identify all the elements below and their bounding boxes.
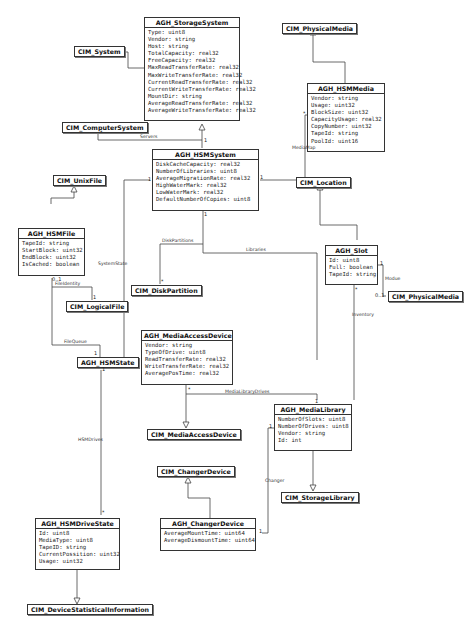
attribute: FreeCapacity: real32 bbox=[148, 57, 236, 64]
cim-changer-device-box: CIM_ChangerDevice bbox=[157, 466, 235, 477]
class-title: AGH_HSMSystem bbox=[153, 150, 258, 160]
attribute: BlockSize: uint32 bbox=[311, 109, 381, 116]
attribute: LowWaterMark: real32 bbox=[156, 189, 255, 196]
cim-unix-file-box: CIM_UnixFile bbox=[53, 175, 106, 186]
agh-changer-device-class: AGH_ChangerDevice AverageMountTime: uint… bbox=[160, 518, 256, 551]
attribute: Type: uint8 bbox=[148, 29, 236, 36]
class-title: AGH_HSMFile bbox=[19, 229, 84, 239]
attribute: Id: uint8 bbox=[39, 530, 116, 537]
attribute: StartBlock: uint32 bbox=[22, 247, 81, 254]
class-title: AGH_StorageSystem bbox=[145, 18, 239, 28]
multiplicity: * bbox=[161, 278, 164, 284]
class-title: AGH_HSMMedia bbox=[308, 84, 384, 94]
attribute: MaxWriteTransferRate: real32 bbox=[148, 72, 236, 79]
attribute: CapacityUsage: real32 bbox=[311, 116, 381, 123]
multiplicity: 1 bbox=[93, 294, 96, 300]
class-attributes: TapeId: string StartBlock: uint32 EndBlo… bbox=[19, 239, 84, 269]
attribute: IsCached: boolean bbox=[22, 261, 81, 268]
attribute: AverageMountTime: uint64 bbox=[164, 530, 252, 537]
agh-storage-system-class: AGH_StorageSystem Type: uint8 Vendor: st… bbox=[144, 17, 240, 121]
attribute: WriteTransferRate: real32 bbox=[145, 363, 229, 370]
attribute: Full: boolean bbox=[329, 264, 374, 271]
association-label-system-state: SystemState bbox=[98, 261, 127, 266]
association-label-file-queue: FileQueue bbox=[64, 339, 87, 344]
attribute: TypeOfDrive: uint8 bbox=[145, 349, 229, 356]
association-label-libraries: Libraries bbox=[246, 247, 266, 252]
class-attributes: Vendor: string TypeOfDrive: uint8 ReadTr… bbox=[142, 341, 232, 378]
agh-hsm-system-class: AGH_HSMSystem DiskCacheCapacity: real32 … bbox=[152, 149, 259, 211]
agh-media-library-class: AGH_MediaLibrary NumberOfSlots: uint8 Nu… bbox=[274, 404, 352, 451]
association-label-inventory: Inventory bbox=[352, 312, 374, 317]
attribute: TapeId: string bbox=[329, 271, 374, 278]
class-attributes: Type: uint8 Vendor: string Host: string … bbox=[145, 28, 239, 115]
multiplicity: * bbox=[102, 509, 105, 515]
multiplicity: 1 bbox=[148, 176, 151, 182]
multiplicity: 1 bbox=[269, 423, 272, 429]
attribute: AverageWriteTransferRate: real32 bbox=[148, 107, 236, 114]
agh-hsm-drive-state-class: AGH_HSMDriveState Id: uint8 MediaType: u… bbox=[35, 518, 120, 570]
attribute: AverageMigrationRate: real32 bbox=[156, 175, 255, 182]
cim-logical-file-box: CIM_LogicalFile bbox=[66, 301, 128, 312]
cim-system-box: CIM_System bbox=[74, 46, 125, 57]
attribute: PoolId: uint16 bbox=[311, 138, 381, 145]
cim-location-box: CIM_Location bbox=[296, 177, 351, 188]
multiplicity: 1 bbox=[260, 174, 263, 180]
cim-computer-system-box: CIM_ComputerSystem bbox=[62, 122, 148, 133]
attribute: MaxReadTransferRate: real32 bbox=[148, 64, 236, 71]
multiplicity: * bbox=[303, 110, 306, 116]
attribute: CopyNumber: uint32 bbox=[311, 123, 381, 130]
attribute: CurrentWriteTransferRate: real32 bbox=[148, 86, 236, 93]
attribute: Vendor: string bbox=[148, 36, 236, 43]
attribute: Usage: uint32 bbox=[39, 558, 116, 565]
attribute: Vendor: string bbox=[278, 430, 348, 437]
multiplicity: 1 bbox=[259, 528, 262, 534]
attribute: MediaType: uint8 bbox=[39, 537, 116, 544]
association-label-disk-partitions: DiskPartitions bbox=[162, 238, 193, 243]
multiplicity: 0..1 bbox=[375, 292, 385, 298]
class-attributes: Vendor: string Usage: uint32 BlockSize: … bbox=[308, 94, 384, 146]
attribute: CurrentPossition: uint32 bbox=[39, 551, 116, 558]
multiplicity: 1 bbox=[204, 211, 207, 217]
agh-hsm-state-box: AGH_HSMState bbox=[77, 357, 139, 368]
association-label-hsm-drives: HSMDrives bbox=[78, 437, 103, 442]
attribute: MountDir: string bbox=[148, 93, 236, 100]
attribute: ReadTransferRate: real32 bbox=[145, 356, 229, 363]
association-label-media-map: MediaMap bbox=[292, 145, 316, 150]
class-attributes: Id: uint8 Full: boolean TapeId: string bbox=[326, 256, 377, 279]
attribute: NumberOfLibraries: uint8 bbox=[156, 168, 255, 175]
attribute: NumberOfDrives: uint8 bbox=[278, 423, 348, 430]
class-attributes: NumberOfSlots: uint8 NumberOfDrives: uin… bbox=[275, 415, 351, 445]
attribute: CurrentReadTransferRate: real32 bbox=[148, 79, 236, 86]
multiplicity: 0..1 bbox=[52, 276, 62, 282]
attribute: AverageReadTransferRate: real32 bbox=[148, 100, 236, 107]
cim-disk-partition-box: CIM_DiskPartition bbox=[131, 285, 202, 296]
attribute: Id: int bbox=[278, 437, 348, 444]
agh-hsm-file-class: AGH_HSMFile TapeId: string StartBlock: u… bbox=[18, 228, 85, 276]
class-title: AGH_HSMDriveState bbox=[36, 519, 119, 529]
multiplicity: 1 bbox=[380, 260, 383, 266]
association-label-servers: Servers bbox=[140, 134, 157, 139]
cim-physical-media-box: CIM_PhysicalMedia bbox=[282, 23, 357, 34]
agh-slot-class: AGH_Slot Id: uint8 Full: boolean TapeId:… bbox=[325, 245, 378, 285]
class-title: AGH_ChangerDevice bbox=[161, 519, 255, 529]
uml-class-diagram: CIM_System CIM_ComputerSystem CIM_Physic… bbox=[0, 0, 467, 621]
attribute: TapeId: string bbox=[311, 130, 381, 137]
association-label-media-library-drives: MediaLibraryDrives bbox=[225, 389, 270, 394]
attribute: EndBlock: uint32 bbox=[22, 254, 81, 261]
cim-storage-library-box: CIM_StorageLibrary bbox=[281, 492, 359, 503]
multiplicity: * bbox=[100, 129, 103, 135]
cim-media-access-device-box: CIM_MediaAccessDevice bbox=[147, 429, 241, 440]
class-title: AGH_MediaLibrary bbox=[275, 405, 351, 415]
attribute: HighWaterMark: real32 bbox=[156, 182, 255, 189]
cim-physical-media-slot-box: CIM_PhysicalMedia bbox=[388, 291, 463, 302]
attribute: AveragePosTime: real32 bbox=[145, 370, 229, 377]
multiplicity: 1 bbox=[94, 350, 97, 356]
agh-hsm-media-class: AGH_HSMMedia Vendor: string Usage: uint3… bbox=[307, 83, 385, 152]
attribute: Id: uint8 bbox=[329, 257, 374, 264]
class-attributes: Id: uint8 MediaType: uint8 TapeID: strin… bbox=[36, 529, 119, 566]
attribute: Vendor: string bbox=[311, 95, 381, 102]
class-attributes: AverageMountTime: uint64 AverageDismount… bbox=[161, 529, 255, 545]
attribute: TapeID: string bbox=[39, 544, 116, 551]
agh-media-access-device-class: AGH_MediaAccessDevice Vendor: string Typ… bbox=[141, 330, 233, 385]
attribute: Host: string bbox=[148, 43, 236, 50]
